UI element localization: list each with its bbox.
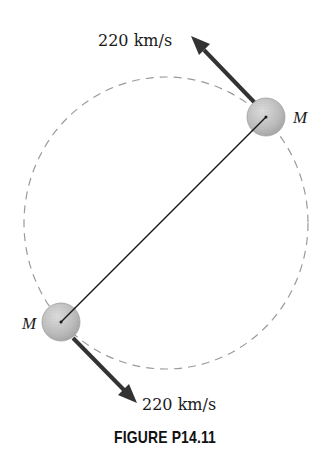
velocity-label-top: 220 km/s: [98, 31, 172, 50]
velocity-arrow-top: [191, 36, 256, 104]
mass-label-top-right: M: [292, 108, 308, 127]
binary-star-diagram: 220 km/s 220 km/s M M: [0, 0, 330, 461]
velocity-label-bottom: 220 km/s: [142, 395, 216, 414]
mass-label-bottom-left: M: [21, 314, 37, 333]
velocity-arrow-bottom: [73, 338, 137, 403]
connector-line: [61, 117, 266, 322]
figure-caption: FIGURE P14.11: [30, 428, 301, 448]
